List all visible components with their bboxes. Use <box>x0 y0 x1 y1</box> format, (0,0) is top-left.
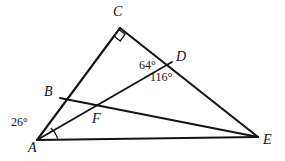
vertex-label-E: E <box>263 133 272 147</box>
vertex-label-D: D <box>176 50 186 64</box>
segment-C-E <box>120 28 258 137</box>
vertex-label-A: A <box>28 141 37 155</box>
geometry-figure: A B C D E F 26° 64° 116° <box>0 0 285 161</box>
geometry-canvas <box>0 0 285 161</box>
vertex-label-B: B <box>44 85 53 99</box>
vertex-label-C: C <box>113 5 122 19</box>
segment-A-E <box>37 137 258 140</box>
vertex-label-F: F <box>92 112 101 126</box>
angle-label-26-at-A: 26° <box>11 116 28 128</box>
angle-label-116-at-D: 116° <box>150 71 172 83</box>
segment-B-E <box>60 98 258 137</box>
